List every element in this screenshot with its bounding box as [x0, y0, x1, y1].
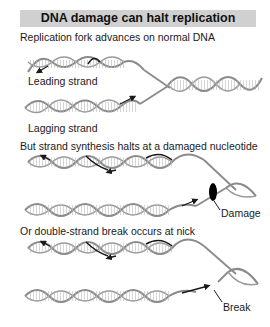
panel-1-bottom-helix [25, 86, 168, 113]
replication-fork-diagram [0, 0, 270, 327]
panel-3-bottom-helix [25, 272, 228, 302]
panel-3-top-helix [28, 239, 236, 274]
break-pointer-line [214, 290, 222, 302]
damage-lesion-icon [209, 183, 217, 201]
panel-2-bottom-helix [25, 188, 226, 216]
panel-2-top-helix [28, 154, 236, 190]
panel-2-downstream-helix [226, 184, 256, 198]
damage-pointer-line [214, 201, 220, 210]
panel-1-top-helix [28, 57, 170, 88]
panel-1-downstream-helix [168, 77, 262, 91]
